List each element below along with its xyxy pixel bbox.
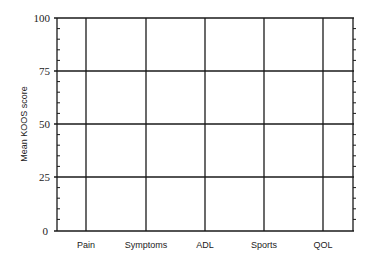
- y-tick-50: 50: [39, 118, 51, 130]
- category-label-adl: ADL: [196, 240, 214, 250]
- x-category-labels: Pain Symptoms ADL Sports QOL: [77, 240, 333, 250]
- koos-chart: 100 75 50 25 0 Mean KOOS score Pain Symp…: [0, 0, 374, 264]
- y-tick-25: 25: [39, 171, 51, 183]
- plot-area: [54, 18, 356, 231]
- category-label-sports: Sports: [251, 240, 278, 250]
- category-label-pain: Pain: [77, 240, 95, 250]
- y-tick-0: 0: [43, 225, 49, 237]
- category-label-qol: QOL: [313, 240, 332, 250]
- y-tick-100: 100: [34, 12, 51, 24]
- category-label-symptoms: Symptoms: [125, 240, 168, 250]
- y-tick-75: 75: [39, 65, 51, 77]
- y-tick-labels: 100 75 50 25 0: [34, 12, 51, 237]
- y-axis-title: Mean KOOS score: [19, 86, 29, 162]
